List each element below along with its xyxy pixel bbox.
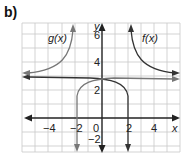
x-tick-label: −4 [43, 122, 56, 134]
graph: −4 −2 0 2 4 6 4 2 −2 x y f(x) g(x) [0, 0, 192, 157]
f-lower-branch [28, 77, 128, 148]
y-tick-label: −2 [88, 133, 101, 145]
x-axis-label: x [171, 122, 178, 134]
y-tick-label: 2 [94, 84, 100, 96]
x-tick-label: −2 [70, 122, 83, 134]
x-axis-arrow-right [172, 115, 180, 122]
g-label: g(x) [48, 32, 67, 44]
y-tick-label: 4 [94, 56, 100, 68]
x-tick-label: 2 [126, 122, 132, 134]
x-axis-arrow-left [24, 115, 32, 122]
x-tick-label: 4 [151, 122, 157, 134]
f-label: f(x) [142, 32, 158, 44]
